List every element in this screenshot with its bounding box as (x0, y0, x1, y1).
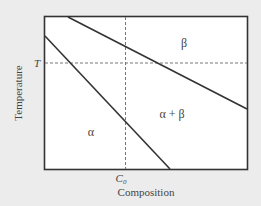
region-alpha-beta-label: α + β (159, 107, 184, 121)
composition-marker-subscript: 0 (123, 178, 127, 186)
temperature-marker-label: T (34, 57, 41, 69)
region-beta-label: β (181, 36, 187, 50)
composition-marker-label: C0 (116, 172, 127, 186)
region-alpha-label: α (88, 125, 95, 139)
phase-diagram: β α + β α T C0 Composition Temperature (0, 0, 261, 206)
y-axis-label: Temperature (12, 65, 24, 121)
x-axis-label: Composition (118, 186, 175, 198)
